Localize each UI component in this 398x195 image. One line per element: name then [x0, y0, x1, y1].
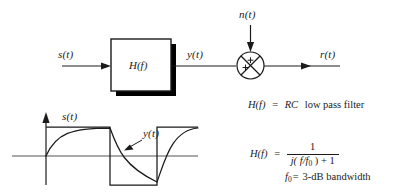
- noise-signal-label: n(t): [239, 9, 256, 20]
- equation-bandwidth: f0=3-dB bandwidth: [285, 172, 371, 183]
- output-arrowhead: [301, 62, 311, 69]
- equation-rc-lowpass: H(f) = RC low pass filter: [248, 100, 364, 111]
- equation2-equals: =: [270, 148, 284, 159]
- equation3-equals: =: [292, 171, 303, 182]
- equation1-rc: RC: [285, 99, 298, 110]
- noise-arrowhead: [247, 42, 254, 52]
- equation-transfer-function: H(f) = 1 j( f/f0 ) + 1: [250, 142, 339, 166]
- waveform-amplitude-arrowhead: [42, 112, 49, 123]
- equation2-denominator: j( f/f0 ) + 1: [287, 155, 339, 167]
- equation3-symbol-sub: 0: [288, 175, 292, 184]
- equation2-den-rest: ( f/f: [294, 155, 309, 166]
- rc-response-wave-y: [46, 128, 198, 182]
- figure-canvas: s(t) H(f) y(t) n(t) r(t) s(t) y(t) H(f) …: [0, 0, 398, 195]
- equation2-den-tail: ) + 1: [312, 155, 335, 166]
- equation1-equals: =: [268, 99, 282, 110]
- input-arrowhead: [101, 62, 111, 69]
- equation1-lhs: H(f): [248, 99, 266, 110]
- output-signal-label: r(t): [320, 49, 335, 60]
- equation2-numerator: 1: [287, 142, 339, 155]
- filter-output-label: y(t): [187, 49, 203, 60]
- equation3-text: 3-dB bandwidth: [303, 171, 371, 182]
- input-signal-label: s(t): [58, 49, 73, 60]
- equation1-text: low pass filter: [301, 99, 365, 110]
- equation2-den-sub: 0: [308, 159, 312, 168]
- equation2-fraction: 1 j( f/f0 ) + 1: [287, 142, 339, 166]
- filter-block-label: H(f): [129, 60, 147, 71]
- waveform-output-label: y(t): [143, 128, 159, 139]
- equation2-lhs: H(f): [250, 148, 268, 159]
- waveform-input-label: s(t): [62, 111, 77, 122]
